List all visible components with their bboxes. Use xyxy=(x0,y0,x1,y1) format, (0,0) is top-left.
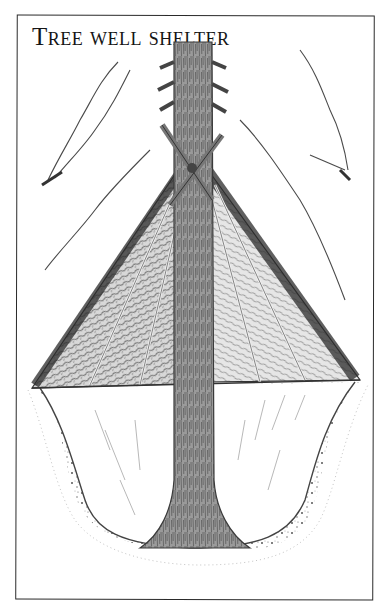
tree-well-shelter-illustration xyxy=(0,0,390,612)
